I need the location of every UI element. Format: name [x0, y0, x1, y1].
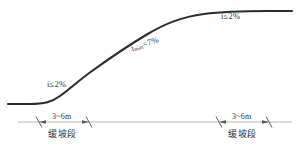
road-grade-diagram: i≤2% imax=7% i≤2% 3~6m 3~6m 缓坡段 缓坡段 [0, 0, 299, 153]
grade-label-left: i≤2% [47, 80, 66, 89]
road-profile-line [8, 11, 292, 104]
dimension-length-left: 3~6m [52, 113, 71, 121]
dimension-length-right: 3~6m [232, 113, 251, 121]
grade-label-right: i≤2% [221, 12, 240, 21]
segment-label-right: 缓坡段 [228, 130, 257, 139]
segment-label-left: 缓坡段 [48, 130, 77, 139]
